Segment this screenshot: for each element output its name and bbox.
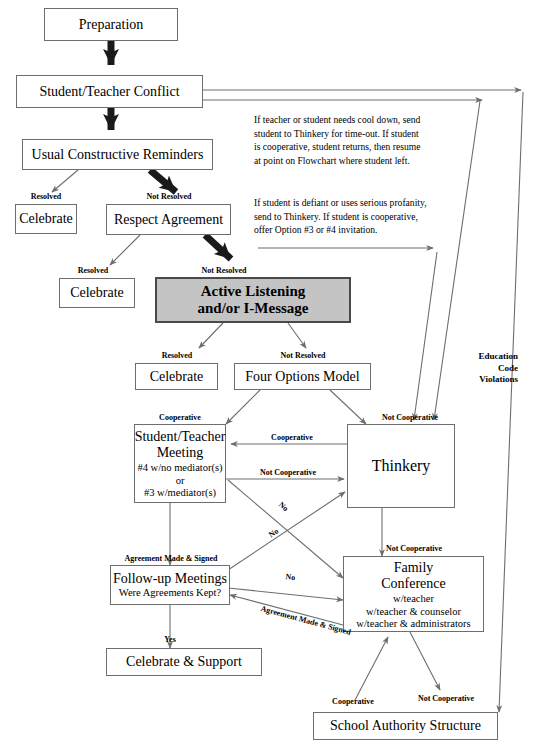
node-active-listening[interactable]: Active Listening and/or I-Message	[155, 277, 351, 323]
node-celebrate-3[interactable]: Celebrate	[135, 363, 218, 390]
edge-reminders-to-celebrate1	[52, 170, 78, 192]
node-four-options-model[interactable]: Four Options Model	[234, 363, 371, 390]
note-defiant: If student is defiant or uses serious pr…	[254, 196, 486, 237]
edge-active-listening-to-four-options	[288, 323, 306, 348]
node-family-conference[interactable]: Family Conference w/teacher w/teacher & …	[343, 556, 484, 632]
edge-label-meeting-not-cooperative: Not Cooperative	[239, 468, 337, 477]
node-usual-constructive-reminders-label: Usual Constructive Reminders	[32, 147, 204, 163]
node-celebrate-2[interactable]: Celebrate	[59, 278, 135, 308]
node-preparation-label: Preparation	[79, 17, 144, 33]
edge-label-no-2: No	[267, 527, 280, 540]
node-student-teacher-meeting[interactable]: Student/Teacher Meeting #4 w/no mediator…	[134, 424, 226, 503]
node-family-conference-label: Family Conference	[381, 560, 446, 591]
edge-four-options-to-thinkery	[330, 390, 366, 424]
edge-label-agreement-made-signed: Agreement Made & Signed	[104, 554, 238, 563]
node-followup-meetings[interactable]: Follow-up Meetings Were Agreements Kept?	[110, 565, 230, 605]
edge-label-respect-resolved: Resolved	[62, 266, 124, 275]
edge-active-listening-to-celebrate3	[199, 323, 223, 348]
node-celebrate-1-label: Celebrate	[19, 211, 73, 227]
node-thinkery[interactable]: Thinkery	[347, 424, 455, 508]
edge-label-reminders-resolved: Resolved	[15, 192, 77, 201]
edge-school-authority-to-family-conference	[355, 637, 388, 700]
node-followup-meetings-label: Follow-up Meetings	[113, 571, 227, 587]
rail-education-code-violations	[499, 92, 523, 712]
node-celebrate-3-label: Celebrate	[150, 369, 204, 385]
node-celebrate-support[interactable]: Celebrate & Support	[106, 648, 262, 676]
node-school-authority-structure-label: School Authority Structure	[330, 718, 481, 734]
label-education-code-violations: Education Code Violations	[460, 351, 518, 386]
node-student-teacher-conflict[interactable]: Student/Teacher Conflict	[16, 75, 203, 108]
edge-label-agreement-made-signed-2: Agreement Made & Signed	[260, 604, 352, 637]
node-student-teacher-meeting-label: Student/Teacher Meeting	[135, 429, 226, 460]
node-school-authority-structure[interactable]: School Authority Structure	[313, 712, 498, 740]
node-usual-constructive-reminders[interactable]: Usual Constructive Reminders	[22, 139, 213, 170]
node-celebrate-support-label: Celebrate & Support	[126, 654, 242, 670]
rail-defiant-to-thinkery	[414, 252, 437, 420]
edge-label-thinkery-cooperative: Cooperative	[250, 433, 334, 442]
flowchart-canvas: Preparation Student/Teacher Conflict Usu…	[0, 0, 548, 755]
node-followup-meetings-sub: Were Agreements Kept?	[119, 587, 221, 599]
edge-label-fc-not-cooperative: Not Cooperative	[409, 694, 483, 703]
edge-label-no-1: No	[277, 500, 290, 513]
node-respect-agreement-label: Respect Agreement	[114, 212, 223, 228]
edge-family-conference-to-school-authority	[410, 632, 440, 690]
node-active-listening-label: Active Listening and/or I-Message	[198, 283, 309, 318]
edge-reminders-to-respect	[150, 170, 176, 192]
node-celebrate-2-label: Celebrate	[70, 285, 124, 301]
edge-st-meeting-to-family-conference-no	[228, 480, 343, 578]
edge-four-options-to-st-meeting	[226, 390, 260, 424]
edge-label-fo-not-cooperative: Not Cooperative	[363, 413, 457, 422]
node-preparation[interactable]: Preparation	[44, 8, 178, 41]
node-respect-agreement[interactable]: Respect Agreement	[106, 204, 231, 235]
edge-respect-to-active-listening	[205, 235, 231, 259]
edge-respect-to-celebrate2	[110, 235, 140, 265]
edge-label-reminders-not-resolved: Not Resolved	[128, 192, 210, 201]
note-cool-down: If teacher or student needs cool down, s…	[254, 113, 478, 167]
node-four-options-model-label: Four Options Model	[245, 369, 359, 385]
node-student-teacher-meeting-sub: #4 w/no mediator(s) or #3 w/mediator(s)	[137, 462, 222, 499]
edge-label-fo-cooperative: Cooperative	[139, 413, 221, 422]
edge-followup-to-family-conference-no	[228, 588, 343, 600]
edge-label-followup-yes: Yes	[152, 635, 188, 644]
node-family-conference-sub: w/teacher w/teacher & counselor w/teache…	[356, 593, 470, 630]
edge-label-al-resolved: Resolved	[146, 351, 208, 360]
edge-label-fc-cooperative: Cooperative	[311, 697, 395, 706]
edge-label-respect-not-resolved: Not Resolved	[182, 266, 266, 275]
node-thinkery-label: Thinkery	[372, 457, 431, 475]
edge-label-thinkery-not-cooperative: Not Cooperative	[366, 544, 462, 553]
edge-label-al-not-resolved: Not Resolved	[262, 351, 344, 360]
node-celebrate-1[interactable]: Celebrate	[15, 204, 77, 234]
node-student-teacher-conflict-label: Student/Teacher Conflict	[39, 84, 179, 100]
edge-label-no-3: No	[285, 572, 296, 582]
